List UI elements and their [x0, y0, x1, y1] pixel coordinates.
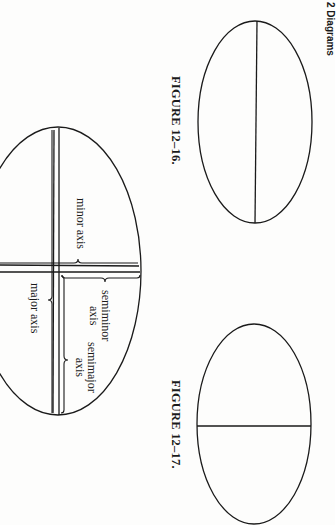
figure-caption-12-16: FIGURE 12–16. [168, 76, 183, 165]
label-major-axis: major axis [29, 283, 41, 333]
label-minor-axis: minor axis [75, 198, 87, 249]
label-semiminor-axis: semiminor axis [88, 290, 112, 341]
figure-12-17-drawing [197, 324, 311, 524]
labeled-ellipse-drawing [0, 127, 141, 415]
running-header: 2 Diagrams [325, 2, 336, 56]
label-semimajor-axis: semimajor axis [74, 342, 98, 393]
label-semimajor-line1: semimajor [86, 342, 98, 393]
figure-12-16-drawing [198, 21, 312, 223]
figure-caption-12-17: FIGURE 12–17. [168, 380, 183, 469]
label-semiminor-line1: semiminor [100, 290, 112, 341]
